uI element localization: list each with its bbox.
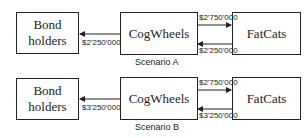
fatcats-label: FatCats [247, 26, 287, 42]
fatcats-label: FatCats [247, 91, 287, 107]
bondholders-label-line1: Bond [33, 83, 61, 98]
flow-fat-to-cog-a: $2'250'000 [199, 46, 238, 55]
fatcats-node-b: FatCats [232, 77, 301, 120]
cogwheels-node-b: CogWheels [120, 77, 198, 120]
flow-fat-to-cog-b: $3'250'000 [199, 111, 238, 120]
bondholders-node-a: Bondholders [16, 12, 79, 54]
flow-cog-to-bond-b: $3'250'000 [82, 103, 121, 112]
bondholders-label-line1: Bond [33, 17, 61, 32]
fatcats-node-a: FatCats [232, 12, 301, 55]
flow-cog-to-fat-b: $2'750'000 [199, 78, 238, 87]
cogwheels-label: CogWheels [129, 26, 190, 42]
scenario-b-caption: Scenario B [135, 122, 179, 132]
bondholders-label-line2: holders [28, 33, 66, 48]
cogwheels-label: CogWheels [129, 91, 190, 107]
cogwheels-node-a: CogWheels [120, 12, 198, 55]
scenario-a-caption: Scenario A [135, 57, 179, 67]
bondholders-node-b: Bondholders [16, 78, 79, 120]
flow-cog-to-bond-a: $2'250'000 [82, 38, 121, 47]
bondholders-label-line2: holders [28, 99, 66, 114]
flow-cog-to-fat-a: $2'750'000 [199, 13, 238, 22]
